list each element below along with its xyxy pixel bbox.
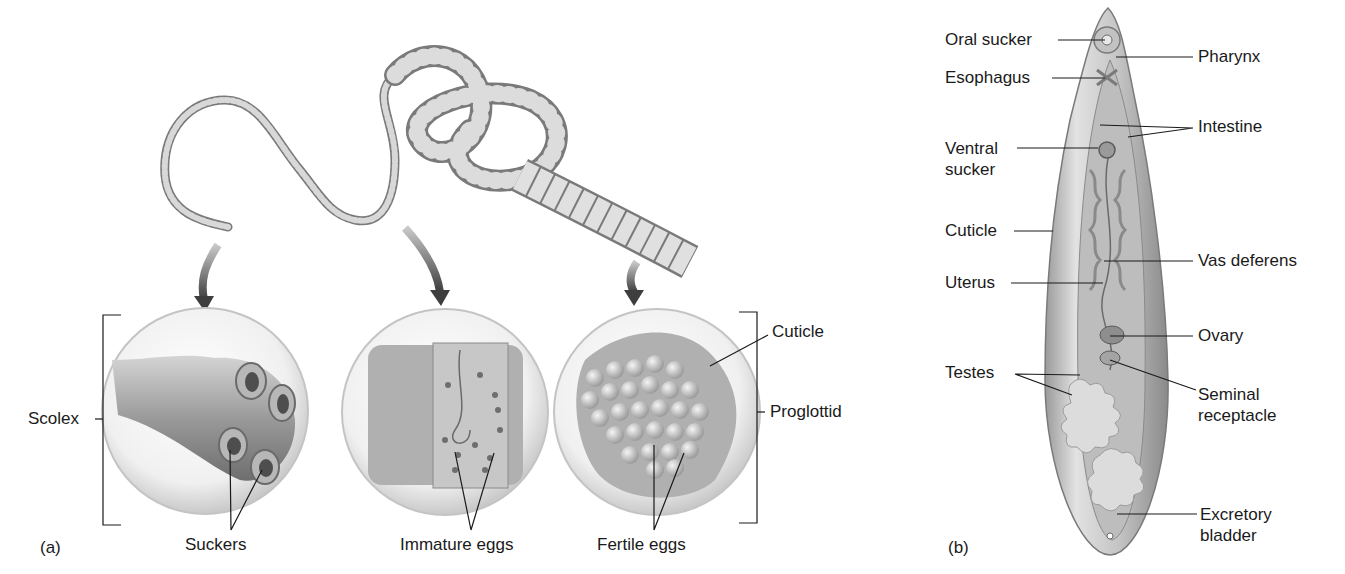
label-fertile-eggs: Fertile eggs: [597, 535, 686, 555]
sucker-icon: [269, 385, 295, 421]
label-uterus: Uterus: [945, 273, 995, 293]
panel-tag-a: (a): [40, 538, 61, 558]
fluke-body: [1045, 8, 1168, 555]
label-vas-deferens: Vas deferens: [1198, 251, 1297, 271]
label-suckers: Suckers: [185, 535, 246, 555]
label-ovary: Ovary: [1198, 326, 1243, 346]
label-ventral-sucker: Ventral sucker: [945, 138, 998, 180]
label-esophagus: Esophagus: [945, 68, 1030, 88]
label-intestine: Intestine: [1198, 117, 1262, 137]
label-seminal-receptacle: Seminal receptacle: [1198, 384, 1276, 426]
label-cuticle-b: Cuticle: [945, 221, 997, 241]
label-oral-sucker: Oral sucker: [945, 30, 1032, 50]
label-immature-eggs: Immature eggs: [400, 535, 513, 555]
panel-tag-b: (b): [948, 538, 969, 558]
arrow-head-icon: [624, 290, 644, 306]
tapeworm-body: [165, 56, 690, 262]
zoom-arrows: [194, 228, 644, 312]
arrow-head-icon: [430, 290, 450, 306]
sucker-icon: [219, 428, 247, 462]
label-proglottid: Proglottid: [770, 402, 842, 422]
immature-proglottid-magnified: [342, 309, 548, 515]
mature-proglottid-magnified: [554, 309, 760, 515]
label-testes: Testes: [945, 363, 994, 383]
illustration-canvas: [0, 0, 1345, 574]
ventral-sucker-icon: [1099, 142, 1115, 158]
sucker-icon: [251, 450, 279, 484]
scolex-magnified: [102, 308, 308, 514]
label-pharynx: Pharynx: [1198, 47, 1260, 67]
label-cuticle-a: Cuticle: [772, 322, 824, 342]
label-scolex: Scolex: [28, 409, 79, 429]
label-excretory-bladder: Excretory bladder: [1200, 504, 1272, 546]
sucker-icon: [236, 363, 266, 399]
